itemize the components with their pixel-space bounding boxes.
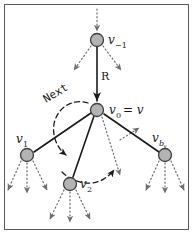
dotted-edge-v0-ellipsis (102, 117, 120, 175)
label-v2: v 2 (80, 177, 92, 194)
dotted-edge-v1-child-3 (33, 161, 47, 190)
label-v0-equals-v: = v (123, 103, 144, 117)
node-vbv[interactable] (159, 149, 172, 162)
dotted-edge-v2-child-1 (50, 190, 64, 219)
node-v-minus-1[interactable] (91, 34, 104, 47)
label-v2-subscript: 2 (87, 185, 92, 194)
label-v1-base: v (16, 132, 23, 146)
figure-root: v −1 v 0 = v v 1 v 2 v b v R Next (0, 0, 193, 234)
node-v1[interactable] (21, 149, 34, 162)
label-vbv-base: v (152, 131, 159, 145)
diagram-canvas: v −1 v 0 = v v 1 v 2 v b v R Next (0, 0, 193, 234)
label-v2-base: v (80, 177, 87, 191)
node-group (21, 34, 172, 191)
node-v0[interactable] (91, 104, 104, 117)
dotted-edge-vbv-child-1 (146, 161, 159, 190)
label-v-minus-1: v −1 (108, 33, 127, 50)
label-vbv-sub-subscript: v (164, 143, 168, 149)
dotted-edge-v-minus-1-right (103, 46, 121, 70)
solid-edge-v0-to-v1 (34, 113, 91, 152)
solid-edge-v0-to-vbv (104, 114, 159, 152)
dotted-edge-v-minus-1-left (74, 46, 91, 70)
label-v-minus-1-subscript: −1 (115, 41, 127, 50)
label-v1: v 1 (16, 132, 28, 149)
label-edge-r: R (101, 70, 110, 83)
label-v1-subscript: 1 (23, 140, 28, 149)
label-v0-base: v (109, 103, 116, 117)
label-vbv: v b v (152, 131, 168, 149)
label-v0-subscript: 0 (116, 111, 121, 120)
dotted-edge-vbv-child-3 (171, 161, 184, 190)
label-v0: v 0 = v (109, 103, 144, 120)
dotted-edge-v0-to-vbv-marker (120, 128, 139, 140)
label-v-minus-1-base: v (108, 33, 115, 47)
dotted-edge-v1-child-1 (8, 161, 21, 190)
label-next-arc: Next (41, 81, 70, 106)
node-v2[interactable] (64, 178, 77, 191)
solid-edge-v0-to-v2 (73, 116, 94, 177)
dotted-edge-v2-child-3 (76, 190, 90, 219)
